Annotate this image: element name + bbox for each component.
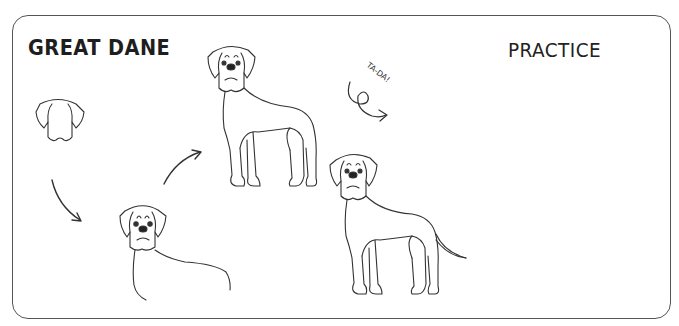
tada-flourish-icon — [348, 82, 387, 121]
arrow-step1-to-step2-icon — [52, 180, 81, 221]
step-2-head-and-neck — [120, 206, 230, 300]
drawing-steps: TA-DA! — [0, 0, 679, 326]
tada-exclamation: TA-DA! — [364, 60, 392, 84]
step-1-head-outline — [36, 100, 84, 141]
step-3-full-body — [208, 46, 317, 186]
arrow-step2-to-step3-icon — [164, 150, 201, 184]
step-4-finished-dog — [330, 154, 466, 294]
